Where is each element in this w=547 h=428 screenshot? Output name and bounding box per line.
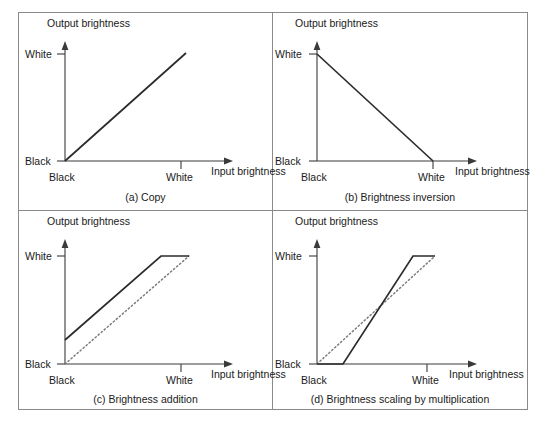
- panel-d-caption: (d) Brightness scaling by multiplication: [273, 393, 527, 405]
- panel-b-caption: (b) Brightness inversion: [273, 191, 527, 203]
- figure-container: Output brightness White Black Black Whit…: [18, 12, 528, 410]
- panel-b-y-axis-title: Output brightness: [295, 17, 378, 29]
- panel-c: Output brightness White Black Black Whit…: [19, 211, 273, 409]
- panel-c-caption: (c) Brightness addition: [19, 393, 272, 405]
- panel-d-xtick-white: White: [412, 374, 439, 386]
- panel-b-xtick-black: Black: [301, 171, 327, 183]
- panel-d-y-axis-title: Output brightness: [295, 215, 378, 227]
- panel-grid: Output brightness White Black Black Whit…: [19, 13, 527, 409]
- panel-d-xtick-black: Black: [301, 374, 327, 386]
- panel-d: Output brightness White Black Black Whit…: [273, 211, 527, 409]
- panel-b-ytick-black: Black: [275, 155, 301, 167]
- panel-c-ytick-white: White: [25, 250, 52, 262]
- panel-a-ytick-black: Black: [25, 155, 51, 167]
- panel-b-plot: Output brightness White Black Black Whit…: [273, 13, 527, 210]
- panel-a-ytick-white: White: [25, 48, 52, 60]
- panel-b-x-axis-title: Input brightness: [455, 165, 530, 177]
- panel-c-ytick-black: Black: [25, 358, 51, 370]
- panel-a-xtick-white: White: [166, 171, 193, 183]
- panel-d-ytick-black: Black: [275, 358, 301, 370]
- panel-b-xtick-white: White: [418, 171, 445, 183]
- panel-c-xtick-black: Black: [49, 374, 75, 386]
- panel-d-ytick-white: White: [275, 250, 302, 262]
- panel-a-y-axis-title: Output brightness: [47, 17, 130, 29]
- panel-b-ytick-white: White: [275, 48, 302, 60]
- panel-a-xtick-black: Black: [49, 171, 75, 183]
- panel-b: Output brightness White Black Black Whit…: [273, 13, 527, 211]
- panel-a-plot: Output brightness White Black Black Whit…: [19, 13, 272, 210]
- panel-c-xtick-white: White: [166, 374, 193, 386]
- panel-a-caption: (a) Copy: [19, 191, 272, 203]
- panel-d-plot: Output brightness White Black Black Whit…: [273, 211, 527, 409]
- panel-c-y-axis-title: Output brightness: [47, 215, 130, 227]
- panel-c-plot: Output brightness White Black Black Whit…: [19, 211, 272, 409]
- panel-a: Output brightness White Black Black Whit…: [19, 13, 273, 211]
- panel-d-x-axis-title: Input brightness: [449, 368, 524, 380]
